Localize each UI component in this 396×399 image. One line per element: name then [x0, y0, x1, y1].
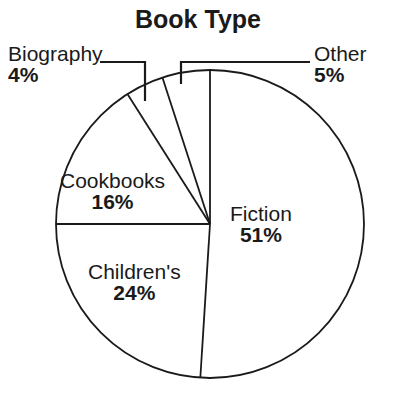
pie-chart-figure: Book Type Biography 4% Other 5% Cookbook…: [0, 0, 396, 399]
slice-label-cookbooks-name: Cookbooks: [60, 170, 165, 191]
slice-label-biography-name: Biography: [8, 43, 103, 64]
slice-label-cookbooks-value: 16%: [60, 191, 165, 212]
slice-label-fiction-value: 51%: [230, 224, 292, 245]
slice-label-other-value: 5%: [314, 64, 367, 85]
slice-label-childrens: Children's 24%: [88, 261, 181, 304]
slice-label-cookbooks: Cookbooks 16%: [60, 170, 165, 213]
slice-label-biography-value: 4%: [8, 64, 103, 85]
slice-label-fiction-name: Fiction: [230, 203, 292, 224]
slice-label-other: Other 5%: [314, 43, 367, 86]
slice-label-fiction: Fiction 51%: [230, 203, 292, 246]
slice-label-biography: Biography 4%: [8, 43, 103, 86]
slice-label-other-name: Other: [314, 43, 367, 64]
slice-label-childrens-value: 24%: [88, 282, 181, 303]
slice-label-childrens-name: Children's: [88, 261, 181, 282]
